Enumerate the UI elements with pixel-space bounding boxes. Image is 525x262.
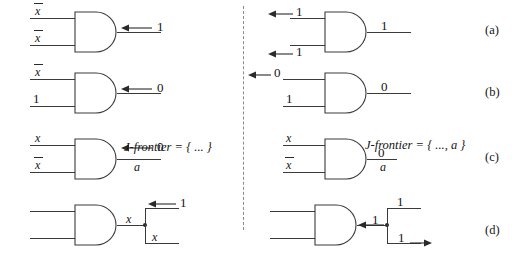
left-c-input-bottom-label: x <box>35 159 40 171</box>
left-d-and-gate <box>74 204 118 246</box>
right-d-branch-down-arrow-right-icon <box>410 237 432 249</box>
left-a-input-bottom-wire <box>30 45 75 46</box>
left-c-input-top-label: x <box>35 132 40 144</box>
left-c-input-bottom-wire <box>30 172 75 173</box>
left-c-input-top-wire <box>30 145 75 146</box>
right-c-input-bottom-wire <box>283 172 325 173</box>
figure-canvas: 1 x x 0 x 1 0 a x x J-frontier = <box>0 0 525 262</box>
case-label-c: (c) <box>485 151 499 164</box>
right-c-j-frontier-text: J-frontier = { ..., a } <box>365 139 465 152</box>
left-a-input-top-label: x <box>35 5 40 17</box>
left-d-branch-up-value: 1 <box>180 196 187 209</box>
left-b-input-top-wire <box>30 79 75 80</box>
left-a-output-value: 1 <box>157 20 164 33</box>
right-a-and-gate <box>324 11 368 53</box>
left-b-input-bottom-wire <box>30 106 75 107</box>
left-a-input-top-wire <box>30 18 75 19</box>
right-c-and-gate <box>324 138 368 180</box>
left-b-input-top-label: x <box>35 66 40 78</box>
left-b-output-value: 0 <box>157 81 164 94</box>
case-label-a: (a) <box>485 24 499 37</box>
column-divider <box>243 6 244 230</box>
left-d-branch-down-value: x <box>152 231 157 243</box>
case-label-d: (d) <box>485 224 500 237</box>
left-b-input-top-overbar <box>34 64 43 65</box>
left-d-fanout-vertical-wire <box>145 208 146 243</box>
right-d-fanout-vertical-wire <box>387 208 388 243</box>
right-a-input-bottom-value: 1 <box>296 45 303 58</box>
right-b-and-gate <box>324 72 368 114</box>
right-b-input-bottom-value: 1 <box>286 92 293 105</box>
right-b-output-value: 0 <box>381 80 388 93</box>
right-d-input-bottom-wire <box>270 238 315 239</box>
left-d-output-stem-wire <box>117 225 145 226</box>
right-d-branch-down-value: 1 <box>398 231 405 244</box>
left-c-input-bottom-overbar <box>34 157 43 158</box>
right-a-input-top-arrow-left-icon <box>268 8 294 20</box>
left-c-output-net-name: a <box>134 161 140 173</box>
right-a-output-wire <box>367 32 411 33</box>
left-a-output-arrow-left-icon <box>121 22 153 34</box>
left-d-branch-up-arrow-left-icon <box>148 198 177 210</box>
right-d-branch-up-wire <box>387 208 421 209</box>
left-a-input-bottom-label: x <box>35 32 40 44</box>
left-c-and-gate <box>74 138 118 180</box>
right-c-input-bottom-label: x <box>286 159 291 171</box>
left-d-branch-down-wire <box>145 243 179 244</box>
right-d-input-top-wire <box>270 211 315 212</box>
right-c-input-top-wire <box>283 145 325 146</box>
right-a-input-top-value: 1 <box>296 5 303 18</box>
left-b-and-gate <box>74 72 118 114</box>
right-d-and-gate <box>314 204 358 246</box>
case-label-b: (b) <box>485 86 500 99</box>
right-b-input-bottom-wire <box>283 106 325 107</box>
right-d-output-value: 1 <box>372 213 379 226</box>
left-c-j-frontier-text: J-frontier = { ... } <box>124 141 212 154</box>
right-b-input-top-wire <box>283 79 325 80</box>
right-b-input-top-arrow-left-icon <box>248 69 272 81</box>
left-b-output-arrow-left-icon <box>121 83 153 95</box>
left-d-input-bottom-wire <box>30 238 75 239</box>
left-b-input-bottom-label: 1 <box>33 92 40 105</box>
right-c-input-top-label: x <box>286 132 291 144</box>
right-a-input-bottom-arrow-left-icon <box>268 48 294 60</box>
right-c-output-net-name: a <box>380 161 386 173</box>
left-a-input-top-overbar <box>34 3 43 4</box>
right-b-output-wire <box>367 93 411 94</box>
left-a-input-bottom-overbar <box>34 30 43 31</box>
right-a-output-value: 1 <box>381 19 388 32</box>
right-d-branch-up-value: 1 <box>397 195 404 208</box>
left-a-and-gate <box>74 11 118 53</box>
left-d-input-top-wire <box>30 211 75 212</box>
right-b-input-top-value: 0 <box>274 66 281 79</box>
left-d-output-value: x <box>126 213 131 225</box>
right-c-input-bottom-overbar <box>285 157 294 158</box>
